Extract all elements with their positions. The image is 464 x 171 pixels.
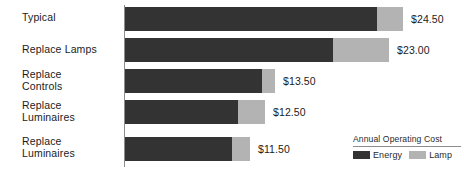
legend-label-energy: Energy [373, 150, 402, 160]
bar-row [125, 7, 403, 31]
stacked-bar-chart: Typical Replace Lamps Replace Controls R… [0, 0, 464, 171]
bar-segment-energy [125, 38, 333, 62]
bar-value-label: $11.50 [258, 137, 290, 161]
chart-legend: Annual Operating Cost Energy Lamp [353, 134, 461, 160]
bar-segment-lamp [238, 100, 265, 124]
legend-swatch-lamp-icon [409, 151, 426, 159]
bar-segment-energy [125, 137, 232, 161]
legend-item-lamp[interactable]: Lamp [409, 150, 452, 160]
legend-title: Annual Operating Cost [353, 134, 461, 147]
bar-value-label: $12.50 [273, 100, 306, 124]
bar-segment-energy [125, 100, 238, 124]
bar-value-label: $13.50 [283, 69, 316, 93]
bar-segment-lamp [262, 69, 275, 93]
legend-swatch-energy-icon [353, 151, 370, 159]
bar-segment-energy [125, 7, 377, 31]
bar-row [125, 100, 265, 124]
bar-row [125, 69, 275, 93]
bar-segment-lamp [333, 38, 389, 62]
legend-items: Energy Lamp [353, 150, 461, 160]
legend-label-lamp: Lamp [429, 150, 452, 160]
bar-row [125, 137, 250, 161]
bar-value-label: $24.50 [411, 7, 444, 31]
bar-value-label: $23.00 [397, 38, 430, 62]
bar-row [125, 38, 389, 62]
legend-item-energy[interactable]: Energy [353, 150, 402, 160]
bar-segment-lamp [232, 137, 250, 161]
bar-segment-energy [125, 69, 262, 93]
bar-segment-lamp [377, 7, 403, 31]
